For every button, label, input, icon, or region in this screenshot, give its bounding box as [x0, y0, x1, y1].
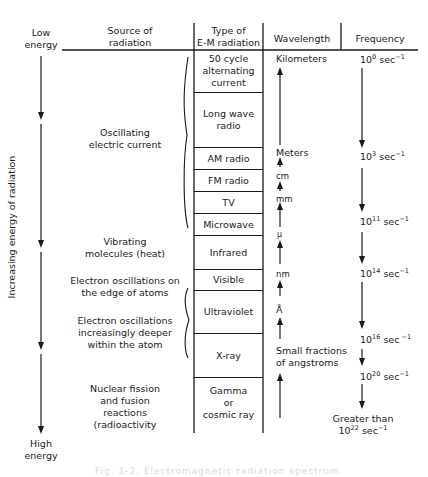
wavelength-fractions-angstrom: Small fractions of angstroms [276, 345, 347, 369]
freq-unit-exp: −1 [399, 267, 409, 275]
source-line: Oscillating [70, 127, 180, 139]
freq-base: 10 [360, 334, 372, 345]
source-electron-edge: Electron oscillations on the edge of ato… [60, 275, 190, 299]
low-energy-label: Low energy [20, 27, 62, 51]
type-50-cycle: 50 cycle alternating current [194, 50, 263, 92]
frequency-10-16: 1016 sec −1 [360, 334, 411, 346]
type-visible: Visible [194, 269, 263, 290]
type-line: Ultraviolet [204, 306, 253, 318]
source-line: the edge of atoms [60, 287, 190, 299]
freq-unit: sec [380, 334, 399, 345]
type-line: current [202, 77, 254, 89]
type-line: Infrared [210, 247, 247, 259]
source-line: and fusion [70, 395, 180, 407]
frequency-10-3: 103 sec−1 [360, 151, 405, 163]
type-line: Long wave [203, 108, 254, 120]
header-type-line-1: Type of [194, 25, 263, 37]
source-line: increasingly deeper [60, 327, 190, 339]
figure-caption: Fig. 1-2. Electromagnetic radiation spec… [95, 466, 344, 476]
source-nuclear: Nuclear fission and fusion reactions (ra… [70, 383, 180, 431]
header-wavelength: Wavelength [263, 33, 341, 45]
source-line: Electron oscillations [60, 315, 190, 327]
type-am-radio: AM radio [194, 147, 263, 169]
freq-unit-exp: −1 [399, 333, 411, 341]
freq-exp: 22 [351, 424, 359, 432]
type-line: or [203, 397, 254, 409]
type-column: 50 cycle alternating current Long wave r… [194, 50, 263, 433]
freq-unit: sec [380, 216, 399, 227]
freq-unit: sec [376, 151, 395, 162]
source-line: Vibrating [70, 236, 180, 248]
low-energy-line-1: Low [20, 27, 62, 39]
type-x-ray: X-ray [194, 333, 263, 377]
frequency-10-14: 1014 sec−1 [360, 268, 409, 280]
high-energy-label: High energy [20, 438, 62, 462]
freq-unit: sec [376, 54, 395, 65]
freq-unit: sec [380, 371, 399, 382]
header-source-line-2: radiation [90, 37, 170, 49]
freq-base: 10 [338, 425, 350, 436]
wavelength-line: of angstroms [276, 357, 347, 369]
type-line: Microwave [203, 219, 254, 231]
increasing-energy-label: Increasing energy of radiation [6, 147, 18, 307]
source-line: electric current [70, 139, 180, 151]
wavelength-angstrom: Å [276, 304, 283, 316]
type-tv: TV [194, 191, 263, 213]
source-line: (radioactivity [70, 419, 180, 431]
freq-base: 10 [360, 54, 372, 65]
type-line: X-ray [216, 350, 241, 362]
freq-base: 10 [360, 151, 372, 162]
freq-unit-exp: −1 [395, 150, 405, 158]
source-oscillating-current: Oscillating electric current [70, 127, 180, 151]
wavelength-kilometers: Kilometers [276, 53, 327, 65]
frequency-10-0: 100 sec−1 [360, 54, 405, 66]
wavelength-micron: μ [277, 229, 282, 241]
frequency-10-11: 1011 sec−1 [360, 216, 409, 228]
source-vibrating-molecules: Vibrating molecules (heat) [70, 236, 180, 260]
type-line: alternating [202, 65, 254, 77]
type-line: Gamma [203, 385, 254, 397]
header-source: Source of radiation [90, 25, 170, 49]
type-gamma: Gamma or cosmic ray [194, 377, 263, 427]
type-line: Visible [213, 274, 244, 286]
freq-base: 10 [360, 216, 372, 227]
type-line: radio [203, 120, 254, 132]
source-line: reactions [70, 407, 180, 419]
type-line: TV [222, 197, 234, 209]
source-line: Electron oscillations on [60, 275, 190, 287]
header-source-line-1: Source of [90, 25, 170, 37]
freq-unit-exp: −1 [399, 370, 409, 378]
header-frequency: Frequency [341, 33, 419, 45]
freq-unit: sec [380, 268, 399, 279]
wavelength-nm: nm [276, 268, 290, 280]
wavelength-cm: cm [276, 170, 289, 182]
source-electron-deeper: Electron oscillations increasingly deepe… [60, 315, 190, 351]
freq-base: 10 [360, 268, 372, 279]
frequency-10-20: 1020 sec−1 [360, 371, 409, 383]
wavelength-line: Small fractions [276, 345, 347, 357]
header-type: Type of E-M radiation [194, 25, 263, 49]
type-fm-radio: FM radio [194, 169, 263, 191]
type-microwave: Microwave [194, 213, 263, 235]
freq-unit: sec [359, 425, 378, 436]
frequency-greater-than-10-22: Greater than 1022 sec−1 [330, 413, 396, 437]
freq-unit-exp: −1 [399, 215, 409, 223]
source-line: within the atom [60, 339, 190, 351]
high-energy-line-1: High [20, 438, 62, 450]
low-energy-line-2: energy [20, 39, 62, 51]
type-infrared: Infrared [194, 235, 263, 269]
type-line: cosmic ray [203, 409, 254, 421]
type-long-wave-radio: Long wave radio [194, 92, 263, 147]
wavelength-mm: mm [276, 193, 293, 205]
wavelength-meters: Meters [276, 147, 308, 159]
freq-unit-exp: −1 [378, 424, 388, 432]
type-line: FM radio [208, 175, 249, 187]
source-line: molecules (heat) [70, 248, 180, 260]
header-type-line-2: E-M radiation [194, 37, 263, 49]
high-energy-line-2: energy [20, 450, 62, 462]
type-line: AM radio [208, 153, 250, 165]
type-line: 50 cycle [202, 53, 254, 65]
freq-unit-exp: −1 [395, 53, 405, 61]
source-line: Nuclear fission [70, 383, 180, 395]
type-ultraviolet: Ultraviolet [194, 290, 263, 333]
